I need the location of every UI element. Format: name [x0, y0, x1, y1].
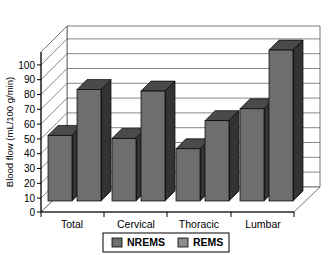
y-tick-label-30: 30: [24, 163, 36, 174]
x-label-cervical: Cervical: [117, 218, 155, 230]
bar-chart-3d: 100 90 80 70 60 50 40 30 20 10 0 Blood f…: [0, 0, 332, 255]
x-label-thoracic: Thoracic: [179, 218, 219, 230]
legend-swatch-rems: [178, 238, 188, 247]
legend: NREMS REMS: [103, 233, 229, 252]
y-tick-label-50: 50: [24, 134, 36, 145]
bar-total-rems[interactable]: [77, 80, 111, 201]
y-tick-label-10: 10: [24, 193, 36, 204]
legend-entry-rems[interactable]: REMS: [178, 236, 223, 248]
y-axis-title: Blood flow (mL/100 g/min): [4, 77, 15, 187]
x-label-total: Total: [61, 218, 83, 230]
y-tick-label-100: 100: [18, 60, 35, 71]
bar-cervical-rems[interactable]: [141, 81, 175, 201]
y-tick-label-0: 0: [29, 207, 35, 218]
legend-entry-nrems[interactable]: NREMS: [112, 236, 165, 248]
y-tick-label-60: 60: [24, 119, 36, 130]
legend-label-nrems: NREMS: [127, 236, 165, 248]
x-label-lumbar: Lumbar: [245, 218, 281, 230]
bar-thoracic-rems[interactable]: [205, 111, 239, 201]
legend-swatch-nrems: [112, 238, 122, 247]
y-tick-label-70: 70: [24, 104, 36, 115]
chart-canvas: 100 90 80 70 60 50 40 30 20 10 0 Blood f…: [0, 0, 332, 255]
legend-label-rems: REMS: [193, 236, 223, 248]
y-tick-label-90: 90: [24, 74, 36, 85]
y-tick-label-20: 20: [24, 178, 36, 189]
y-tick-label-40: 40: [24, 148, 36, 159]
y-tick-label-80: 80: [24, 89, 36, 100]
bar-lumbar-rems[interactable]: [269, 40, 303, 201]
